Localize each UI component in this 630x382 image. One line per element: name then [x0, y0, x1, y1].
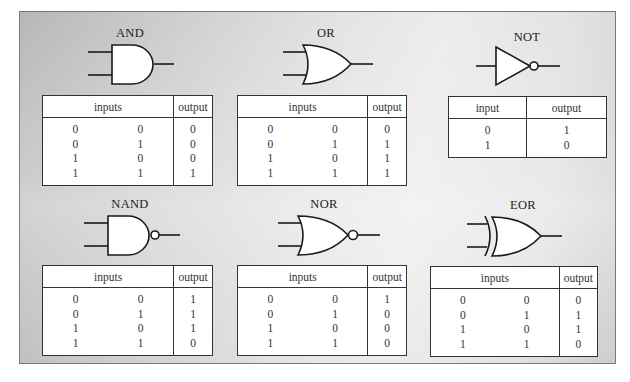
cell: 0: [43, 307, 109, 322]
cell: 0: [303, 288, 368, 307]
header-inputs: inputs: [238, 96, 368, 118]
cell: 1: [559, 322, 597, 337]
cell: 1: [449, 138, 527, 158]
cell: 0: [108, 288, 174, 307]
cell: 0: [43, 137, 108, 152]
cell: 1: [108, 137, 173, 152]
cell: 0: [238, 137, 303, 152]
table-row: 110: [43, 336, 213, 356]
table-row: 011: [43, 307, 213, 322]
cell: 0: [559, 289, 597, 308]
cell: 0: [43, 288, 109, 307]
cell: 1: [108, 307, 174, 322]
table-row: 011: [238, 137, 407, 152]
header-inputs: inputs: [43, 266, 174, 288]
gate-title-not: NOT: [487, 30, 567, 45]
cell: 0: [431, 308, 495, 323]
cell: 1: [238, 151, 303, 166]
cell: 1: [43, 166, 108, 186]
cell: 0: [527, 138, 607, 158]
cell: 0: [303, 151, 368, 166]
table-row: 011: [431, 308, 598, 323]
cell: 0: [174, 336, 213, 356]
cell: 0: [108, 151, 173, 166]
cell: 0: [431, 289, 495, 308]
or-gate-icon: [281, 42, 377, 86]
table-row: 101: [43, 321, 213, 336]
cell: 1: [303, 166, 368, 186]
table-row: 110: [431, 337, 598, 357]
cell: 0: [173, 137, 212, 152]
table-row: 010: [43, 137, 213, 152]
table-row: 111: [43, 166, 213, 186]
truth-table-nor: inputs output 001 010 100 110: [237, 265, 407, 356]
cell: 0: [449, 119, 527, 138]
table-row: 110: [238, 336, 407, 356]
table-row: 100: [43, 151, 213, 166]
header-inputs: inputs: [431, 267, 560, 289]
cell: 0: [238, 118, 303, 137]
header-inputs: inputs: [43, 96, 174, 118]
table-row: 001: [238, 288, 407, 307]
table-row: 111: [238, 166, 407, 186]
cell: 1: [108, 166, 173, 186]
cell: 1: [495, 308, 559, 323]
cell: 0: [559, 337, 597, 357]
cell: 0: [173, 118, 212, 137]
truth-table-eor: inputs output 000 011 101 110: [430, 266, 598, 357]
table-row: 010: [238, 307, 407, 322]
cell: 1: [174, 321, 213, 336]
header-output: output: [368, 266, 407, 288]
header-output: output: [174, 266, 213, 288]
cell: 1: [431, 322, 495, 337]
cell: 0: [108, 118, 173, 137]
cell: 0: [303, 321, 368, 336]
not-gate-icon: [474, 44, 562, 88]
header-output: output: [559, 267, 597, 289]
cell: 1: [238, 321, 303, 336]
cell: 1: [43, 151, 108, 166]
gate-title-and: AND: [90, 26, 170, 41]
table-row: 000: [431, 289, 598, 308]
header-output: output: [368, 96, 407, 118]
cell: 0: [368, 321, 407, 336]
cell: 1: [174, 288, 213, 307]
cell: 1: [303, 137, 368, 152]
cell: 1: [238, 166, 303, 186]
header-output: output: [173, 96, 212, 118]
header-inputs: inputs: [238, 266, 368, 288]
gate-title-nor: NOR: [284, 197, 364, 212]
eor-gate-icon: [465, 214, 565, 258]
cell: 0: [43, 118, 108, 137]
table-row: 10: [449, 138, 607, 158]
gate-title-eor: EOR: [483, 198, 563, 213]
cell: 0: [368, 307, 407, 322]
and-gate-icon: [86, 42, 178, 86]
table-row: 101: [238, 151, 407, 166]
cell: 0: [238, 288, 303, 307]
cell: 1: [303, 336, 368, 356]
cell: 1: [495, 337, 559, 357]
cell: 1: [527, 119, 607, 138]
truth-table-and: inputs output 000 010 100 111: [42, 95, 213, 186]
truth-table-or: inputs output 000 011 101 111: [237, 95, 407, 186]
gate-title-nand: NAND: [90, 197, 170, 212]
nand-gate-icon: [82, 213, 182, 257]
table-row: 101: [431, 322, 598, 337]
table-row: 01: [449, 119, 607, 138]
cell: 0: [173, 151, 212, 166]
nor-gate-icon: [276, 213, 386, 257]
cell: 1: [43, 336, 109, 356]
truth-table-nand: inputs output 001 011 101 110: [42, 265, 213, 356]
cell: 1: [238, 336, 303, 356]
cell: 1: [174, 307, 213, 322]
cell: 0: [238, 307, 303, 322]
cell: 1: [559, 308, 597, 323]
cell: 0: [495, 289, 559, 308]
cell: 1: [303, 307, 368, 322]
cell: 0: [368, 336, 407, 356]
header-output: output: [527, 97, 607, 119]
gate-title-or: OR: [286, 26, 366, 41]
table-row: 001: [43, 288, 213, 307]
cell: 1: [173, 166, 212, 186]
